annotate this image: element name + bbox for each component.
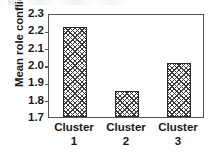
y-axis-tick-label: 1.8	[11, 95, 44, 106]
y-axis-tick-mark	[45, 66, 49, 67]
y-axis-tick-labels: 2.32.22.12.01.91.81.7	[11, 0, 44, 155]
y-axis-tick-label: 1.7	[11, 112, 44, 123]
y-axis-tick-label: 2.0	[11, 60, 44, 71]
bar-chart-figure: Mean role conflict 2.32.22.12.01.91.81.7…	[0, 0, 217, 155]
plot-inner	[49, 15, 203, 117]
y-axis-tick-label: 2.3	[11, 8, 44, 19]
x-axis-tick-label-line1: Cluster	[54, 121, 94, 133]
y-axis-tick-mark	[45, 84, 49, 85]
bar	[167, 63, 191, 117]
x-axis-tick-label-line2: 3	[152, 134, 204, 148]
bar	[115, 91, 139, 117]
x-axis-tick-label-line2: 2	[100, 134, 152, 148]
x-axis-tick-label-line2: 1	[48, 134, 100, 148]
x-axis-tick-label: Cluster1	[48, 120, 100, 148]
y-axis-tick-mark	[45, 32, 49, 33]
y-axis-tick-label: 2.2	[11, 25, 44, 36]
y-axis-tick-mark	[45, 101, 49, 102]
x-axis-tick-label-line1: Cluster	[106, 121, 146, 133]
x-axis-tick-labels: Cluster1Cluster2Cluster3	[48, 120, 204, 154]
x-axis-tick-label: Cluster3	[152, 120, 204, 148]
y-axis-tick-label: 2.1	[11, 43, 44, 54]
x-axis-tick-label: Cluster2	[100, 120, 152, 148]
x-axis-tick-label-line1: Cluster	[158, 121, 198, 133]
y-axis-tick-mark	[45, 49, 49, 50]
bar	[63, 27, 87, 117]
plot-area	[48, 14, 204, 118]
y-axis-tick-label: 1.9	[11, 77, 44, 88]
